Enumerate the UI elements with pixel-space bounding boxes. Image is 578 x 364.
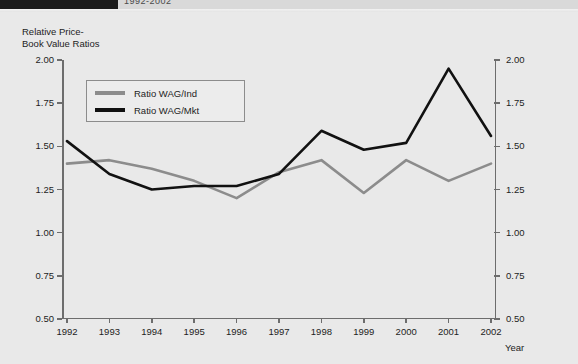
legend-swatch-ratio-wag-ind <box>95 91 125 94</box>
y-axis-tick-label-right: 1.25 <box>506 184 525 195</box>
y-axis-title-line1: Relative Price- <box>22 26 99 38</box>
x-axis-tick-label: 2001 <box>429 326 469 337</box>
y-axis-tick-label-left: 2.00 <box>36 54 55 65</box>
y-axis-tick-label-right: 1.75 <box>506 97 525 108</box>
header-dark-block <box>0 0 118 9</box>
chart-legend: Ratio WAG/Ind Ratio WAG/Mkt <box>86 80 245 122</box>
y-axis-tick-label-right: 0.75 <box>506 270 525 281</box>
y-axis-tick-label-right: 1.00 <box>506 227 525 238</box>
chart-screenshot: 1992-2002 Relative Price- Book Value Rat… <box>0 0 578 364</box>
y-axis-title: Relative Price- Book Value Ratios <box>22 26 99 50</box>
x-axis-tick-label: 2002 <box>471 326 511 337</box>
x-axis-tick-label: 1998 <box>301 326 341 337</box>
y-axis-tick-label-left: 0.50 <box>36 313 55 324</box>
y-axis-tick-label-left: 0.75 <box>36 270 55 281</box>
x-axis-tick-label: 1993 <box>89 326 129 337</box>
y-axis-tick-label-right: 2.00 <box>506 54 525 65</box>
legend-label-ratio-wag-mkt: Ratio WAG/Mkt <box>134 105 199 116</box>
header-year-range: 1992-2002 <box>124 0 172 6</box>
y-axis-tick-label-right: 0.50 <box>506 313 525 324</box>
x-axis-title: Year <box>505 342 524 354</box>
chart-canvas: Relative Price- Book Value Ratios Year 0… <box>0 12 578 364</box>
y-axis-tick-label-left: 1.75 <box>36 97 55 108</box>
y-axis-tick-label-left: 1.50 <box>36 140 55 151</box>
legend-swatch-ratio-wag-mkt <box>95 108 125 111</box>
y-axis-tick-label-right: 1.50 <box>506 140 525 151</box>
x-axis-tick-label: 1997 <box>259 326 299 337</box>
x-axis-tick-label: 2000 <box>386 326 426 337</box>
page-header-strip: 1992-2002 <box>0 0 578 9</box>
y-axis-tick-label-left: 1.25 <box>36 184 55 195</box>
x-axis-tick-label: 1994 <box>132 326 172 337</box>
y-axis-title-line2: Book Value Ratios <box>22 38 99 50</box>
series-line-ratio-wag-ind <box>67 160 491 198</box>
legend-entry-ratio-wag-ind: Ratio WAG/Ind <box>95 85 197 101</box>
legend-label-ratio-wag-ind: Ratio WAG/Ind <box>134 88 197 99</box>
x-axis-tick-label: 1995 <box>174 326 214 337</box>
y-axis-tick-label-left: 1.00 <box>36 227 55 238</box>
x-axis-tick-label: 1996 <box>217 326 257 337</box>
legend-entry-ratio-wag-mkt: Ratio WAG/Mkt <box>95 102 199 118</box>
x-axis-tick-label: 1992 <box>47 326 87 337</box>
x-axis-tick-label: 1999 <box>344 326 384 337</box>
